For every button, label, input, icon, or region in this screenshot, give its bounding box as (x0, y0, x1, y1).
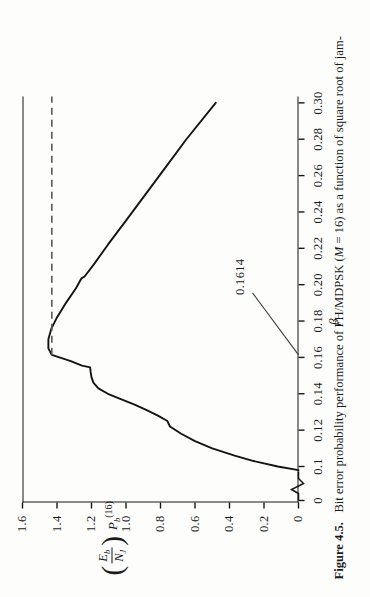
caption-part-1: Bit error probability performance of FH/… (331, 257, 345, 512)
annotation-label: 0.1614 (232, 258, 247, 294)
callout-leader-line (252, 292, 298, 354)
y-axis-title: ( Eb NJ ) Pb(16) (96, 501, 128, 575)
x-tick-label: 0 (310, 497, 325, 504)
x-tick-label: 0.24 (310, 200, 325, 223)
x-tick-label: 0.1 (310, 458, 325, 475)
scanned-page: 00.10.120.140.160.180.200.220.240.260.28… (0, 0, 370, 597)
y-tick-label: 0 (291, 515, 306, 522)
x-tick-label: 0.26 (310, 164, 325, 187)
x-tick-label: 0.28 (310, 127, 325, 150)
x-tick-label: 0.20 (310, 273, 325, 296)
y-title-paren-open: ( (100, 565, 123, 575)
y-title-paren-close: ) (100, 536, 123, 546)
x-tick-label: 0.18 (310, 309, 325, 332)
caption-part-2: = 16) as a function of square root of ja… (331, 36, 345, 247)
figure-number: Figure 4.5. (331, 522, 345, 579)
caption-italic-M: M (331, 246, 345, 257)
x-tick-label: 0.16 (310, 345, 325, 368)
x-axis-break-icon (291, 471, 303, 500)
x-tick-label: 0.14 (310, 382, 325, 405)
y-tick-label: 1.6 (15, 515, 30, 532)
chart-plot-area: 00.10.120.140.160.180.200.220.240.260.28… (22, 96, 298, 502)
y-title-pb: Pb(16) (103, 501, 121, 530)
figure-caption: Figure 4.5. Bit error probability perfor… (330, 19, 346, 579)
x-tick-label: 0.12 (310, 418, 325, 441)
x-tick-label: 0.22 (310, 236, 325, 259)
y-tick-label: 0.2 (256, 515, 271, 532)
y-tick-label: 1.4 (49, 515, 64, 532)
rotated-figure: 00.10.120.140.160.180.200.220.240.260.28… (0, 0, 370, 597)
y-title-numerator: Eb (96, 547, 111, 563)
y-title-denominator: NJ (112, 547, 127, 563)
y-tick-label: 0.8 (153, 515, 168, 532)
y-tick-label: 0.6 (187, 515, 202, 532)
y-title-fraction: Eb NJ (96, 547, 128, 563)
x-tick-label: 0.30 (310, 91, 325, 114)
data-series-line (48, 102, 298, 469)
y-tick-label: 0.4 (222, 515, 237, 532)
chart-svg (22, 96, 298, 502)
